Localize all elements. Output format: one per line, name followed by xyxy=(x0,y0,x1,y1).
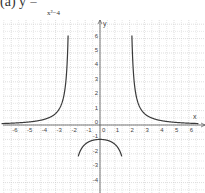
x-tick-label: -5 xyxy=(27,127,33,133)
y-tick-label: 5 xyxy=(95,47,99,53)
x-axis-label: x xyxy=(193,113,197,120)
y-axis-label: y xyxy=(103,20,107,28)
function-plot: -6-5-4-3-2-10123456-4-3-2-10123456 x y xyxy=(0,0,205,193)
x-tick-label: -2 xyxy=(71,127,77,133)
y-tick-label: 6 xyxy=(95,33,99,39)
y-tick-label: 0 xyxy=(95,119,99,125)
x-tick-label: 5 xyxy=(175,127,179,133)
y-tick-label: 4 xyxy=(95,61,99,67)
x-tick-label: 3 xyxy=(145,127,149,133)
y-tick-label: -4 xyxy=(93,177,99,183)
x-tick-label: -4 xyxy=(42,127,48,133)
y-tick-label: 2 xyxy=(95,90,99,96)
x-tick-label: -1 xyxy=(86,127,92,133)
y-tick-label: -2 xyxy=(93,148,99,154)
x-tick-label: -6 xyxy=(12,127,18,133)
y-tick-label: 3 xyxy=(95,76,99,82)
y-tick-label: -3 xyxy=(93,162,99,168)
y-tick-label: -1 xyxy=(93,133,99,139)
y-tick-label: 1 xyxy=(95,105,99,111)
x-tick-label: -3 xyxy=(57,127,63,133)
grid xyxy=(3,20,205,193)
